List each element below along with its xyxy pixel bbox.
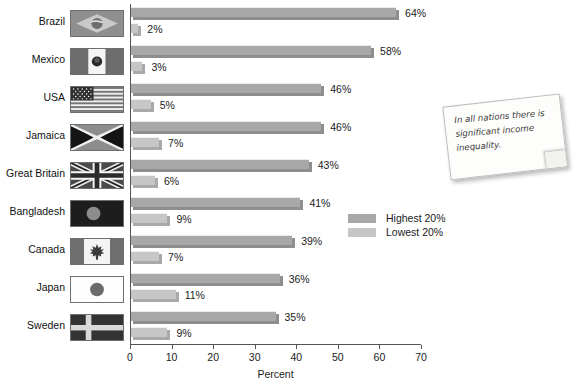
sweden-flag — [70, 314, 124, 341]
x-tick-label: 0 — [110, 351, 150, 363]
bar-highest — [130, 121, 321, 131]
bar-face — [130, 121, 321, 131]
bar-face — [130, 175, 155, 185]
bar-bottom-shadow — [133, 223, 170, 226]
usa-flag — [70, 86, 124, 113]
country-label-bangladesh: Bangladesh — [0, 205, 65, 217]
bar-value-highest: 46% — [330, 84, 351, 94]
bar-value-highest: 43% — [318, 160, 339, 170]
bar-value-lowest: 6% — [164, 176, 179, 186]
bar-value-lowest: 2% — [147, 24, 162, 34]
x-axis-line — [130, 344, 421, 345]
bar-face — [130, 311, 276, 321]
x-tick-label: 60 — [359, 351, 399, 363]
legend-swatch-lowest — [348, 228, 376, 237]
bar-lowest — [130, 99, 151, 109]
legend-swatch-highest — [348, 214, 376, 223]
bar-bottom-shadow — [133, 109, 154, 112]
chart-container: Brazil64%2%Mexico58%3%USA46%5%Jamaica46%… — [0, 0, 577, 387]
mexico-flag — [70, 48, 124, 75]
bar-value-highest: 35% — [285, 312, 306, 322]
bar-value-lowest: 7% — [168, 138, 183, 148]
bar-lowest — [130, 61, 142, 71]
x-tick-label: 20 — [193, 351, 233, 363]
x-tick — [338, 345, 339, 349]
bar-bottom-shadow — [133, 55, 374, 58]
bar-value-highest: 39% — [301, 236, 322, 246]
chart-row: Brazil64%2% — [0, 5, 577, 43]
country-label-canada: Canada — [0, 243, 65, 255]
country-label-japan: Japan — [0, 281, 65, 293]
bar-face — [130, 61, 142, 71]
country-label-jamaica: Jamaica — [0, 129, 65, 141]
x-tick-label: 70 — [401, 351, 441, 363]
bar-value-lowest: 9% — [176, 214, 191, 224]
chart-row: Japan36%11% — [0, 271, 577, 309]
bar-value-lowest: 9% — [176, 328, 191, 338]
bar-lowest — [130, 175, 155, 185]
bar-bottom-shadow — [133, 71, 145, 74]
bar-face — [130, 159, 309, 169]
chart-row: Sweden35%9% — [0, 309, 577, 347]
x-tick — [172, 345, 173, 349]
bar-bottom-shadow — [133, 169, 312, 172]
bar-highest — [130, 235, 292, 245]
bar-highest — [130, 45, 371, 55]
bar-face — [130, 197, 300, 207]
x-tick-label: 40 — [276, 351, 316, 363]
bar-face — [130, 83, 321, 93]
y-axis-line — [130, 4, 131, 344]
bar-face — [130, 213, 167, 223]
bar-value-lowest: 3% — [151, 62, 166, 72]
bar-bottom-shadow — [133, 147, 162, 150]
x-tick-label: 50 — [318, 351, 358, 363]
bar-value-highest: 41% — [309, 198, 330, 208]
x-tick — [379, 345, 380, 349]
x-tick — [296, 345, 297, 349]
bar-face — [130, 327, 167, 337]
bar-face — [130, 99, 151, 109]
bar-lowest — [130, 251, 159, 261]
country-label-usa: USA — [0, 91, 65, 103]
great-britain-flag — [70, 162, 124, 189]
bar-value-highest: 46% — [330, 122, 351, 132]
bar-face — [130, 273, 280, 283]
bar-face — [130, 137, 159, 147]
bar-lowest — [130, 213, 167, 223]
bar-lowest — [130, 327, 167, 337]
country-label-sweden: Sweden — [0, 319, 65, 331]
legend-label-highest: Highest 20% — [386, 212, 446, 225]
chart-row: Bangladesh41%9% — [0, 195, 577, 233]
sticky-note-curl-corner — [544, 149, 567, 168]
bar-value-highest: 64% — [405, 8, 426, 18]
bar-bottom-shadow — [133, 33, 141, 36]
x-tick — [421, 345, 422, 349]
bar-face — [130, 23, 138, 33]
bar-face — [130, 45, 371, 55]
bar-bottom-shadow — [133, 261, 162, 264]
sticky-note-text: In all nations there is significant inco… — [454, 106, 549, 155]
x-tick-label: 30 — [235, 351, 275, 363]
bar-lowest — [130, 137, 159, 147]
country-label-great-britain: Great Britain — [0, 167, 65, 179]
legend-label-lowest: Lowest 20% — [386, 226, 443, 239]
x-tick — [213, 345, 214, 349]
bar-highest — [130, 83, 321, 93]
bangladesh-flag — [70, 200, 124, 227]
brazil-flag — [70, 10, 124, 37]
bar-bottom-shadow — [133, 207, 303, 210]
bar-value-lowest: 7% — [168, 252, 183, 262]
x-tick — [130, 345, 131, 349]
bar-bottom-shadow — [133, 283, 283, 286]
bar-value-lowest: 5% — [160, 100, 175, 110]
bar-face — [130, 235, 292, 245]
japan-flag — [70, 276, 124, 303]
bar-highest — [130, 197, 300, 207]
bar-value-lowest: 11% — [185, 290, 205, 300]
bar-highest — [130, 311, 276, 321]
bar-value-highest: 58% — [380, 46, 401, 56]
canada-flag — [70, 238, 124, 265]
bar-bottom-shadow — [133, 299, 179, 302]
bar-bottom-shadow — [133, 321, 279, 324]
bar-value-highest: 36% — [289, 274, 310, 284]
